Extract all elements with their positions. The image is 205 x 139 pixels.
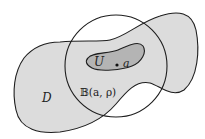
point-a-dot xyxy=(115,63,118,66)
ball-label: 𝔹(a, ρ) xyxy=(80,87,116,98)
diagram-figure: D U a 𝔹(a, ρ) xyxy=(0,0,205,139)
diagram-canvas xyxy=(0,0,205,139)
subset-label: U xyxy=(94,56,104,68)
domain-D-region xyxy=(14,13,198,133)
domain-label: D xyxy=(42,92,52,104)
point-label: a xyxy=(123,58,130,69)
